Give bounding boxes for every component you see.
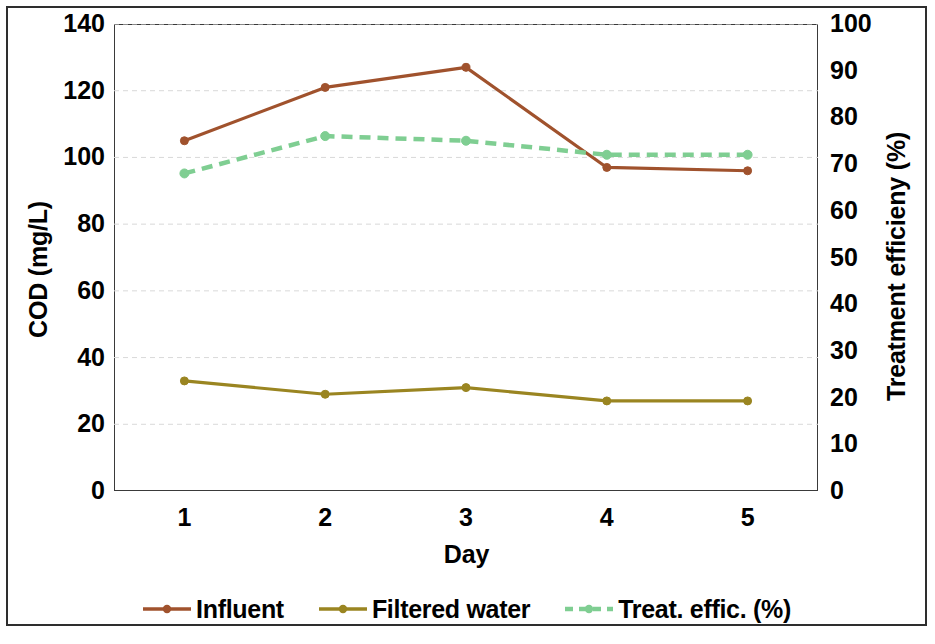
data-point	[603, 397, 611, 405]
x-axis-tick-5: 5	[718, 505, 778, 530]
data-point	[321, 83, 329, 91]
x-axis-tick-1: 1	[154, 505, 214, 530]
data-point	[462, 63, 470, 71]
legend-label: Filtered water	[372, 595, 530, 624]
data-point	[603, 163, 611, 171]
legend-label: Treat. effic. (%)	[618, 595, 791, 624]
data-point	[462, 384, 470, 392]
x-axis-tick-2: 2	[295, 505, 355, 530]
chart-legend: InfluentFiltered waterTreat. effic. (%)	[114, 588, 819, 630]
data-point	[744, 397, 752, 405]
legend-item-influent[interactable]: Influent	[142, 595, 284, 624]
series-line-influent	[184, 67, 747, 170]
x-axis-tick-4: 4	[577, 505, 637, 530]
legend-swatch-solid	[318, 600, 368, 618]
legend-label: Influent	[196, 595, 284, 624]
data-point	[602, 150, 611, 159]
x-axis-tick-3: 3	[436, 505, 496, 530]
plot-canvas	[114, 24, 818, 491]
legend-item-filtered-water[interactable]: Filtered water	[318, 595, 530, 624]
chart-figure: COD (mg/L) Treatment efficieny (%) Day 1…	[0, 0, 935, 644]
data-point	[180, 137, 188, 145]
data-point	[744, 167, 752, 175]
data-point	[180, 377, 188, 385]
data-point	[462, 136, 471, 145]
legend-swatch-dashed	[564, 600, 614, 618]
legend-item-treat-effic[interactable]: Treat. effic. (%)	[564, 595, 791, 624]
data-point	[321, 390, 329, 398]
data-point	[180, 169, 189, 178]
legend-swatch-solid	[142, 600, 192, 618]
data-point	[321, 132, 330, 141]
data-point	[743, 150, 752, 159]
